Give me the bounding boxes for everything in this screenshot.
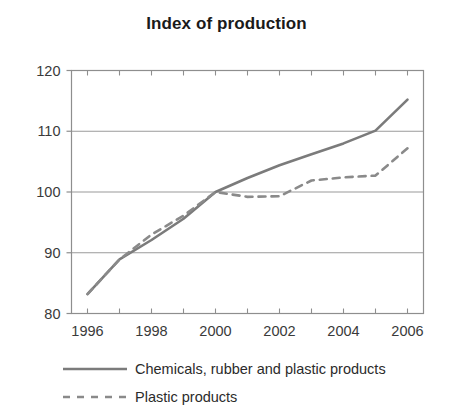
- y-axis-label-100: 100: [36, 184, 60, 200]
- x-axis-label-2000: 2000: [199, 323, 231, 339]
- y-axis-label-120: 120: [36, 63, 60, 79]
- legend-label-0: Chemicals, rubber and plastic products: [135, 361, 386, 377]
- x-axis-label-2002: 2002: [263, 323, 295, 339]
- series-line-1: [88, 148, 408, 294]
- gridline-group: [72, 131, 424, 253]
- chart-legend: Chemicals, rubber and plastic productsPl…: [63, 361, 386, 405]
- y-tick-group: [67, 71, 72, 314]
- x-axis-label-2006: 2006: [391, 323, 423, 339]
- x-axis-label-1998: 1998: [135, 323, 167, 339]
- y-tick-label-group: 8090100110120: [36, 63, 60, 322]
- legend-label-1: Plastic products: [135, 389, 237, 405]
- chart-container: Index of production 8090100110120 199619…: [0, 0, 453, 418]
- x-axis-label-2004: 2004: [327, 323, 359, 339]
- y-axis-label-90: 90: [44, 245, 60, 261]
- x-axis-label-1996: 1996: [71, 323, 103, 339]
- chart-plot-area: 8090100110120 199619982000200220042006 C…: [0, 0, 453, 418]
- y-axis-label-80: 80: [44, 306, 60, 322]
- data-series-group: [88, 100, 408, 294]
- y-axis-label-110: 110: [37, 123, 60, 139]
- x-tick-label-group: 199619982000200220042006: [71, 323, 423, 339]
